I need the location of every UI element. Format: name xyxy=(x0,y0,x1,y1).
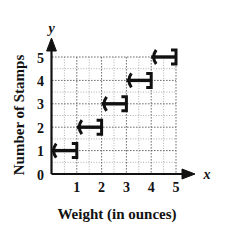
x-tick-label-3: 3 xyxy=(123,180,130,195)
x-tick-label-1: 1 xyxy=(73,180,80,195)
x-tick-label-2: 2 xyxy=(98,180,105,195)
y-axis-title: Number of Stamps xyxy=(11,55,27,176)
y-axis-variable-label: y xyxy=(46,21,55,36)
step-function-chart: 5 4 3 2 1 0 1 2 3 4 5 y x Number of Stam… xyxy=(0,0,228,232)
x-tick-label-4: 4 xyxy=(148,180,155,195)
y-tick-label-1: 1 xyxy=(37,144,44,159)
y-tick-label-2: 2 xyxy=(37,121,44,136)
x-axis-variable-label: x xyxy=(203,167,211,182)
x-axis-title: Weight (in ounces) xyxy=(57,206,176,223)
x-tick-label-5: 5 xyxy=(173,180,180,195)
y-tick-label-0: 0 xyxy=(37,168,44,183)
y-tick-label-3: 3 xyxy=(37,97,44,112)
chart-background xyxy=(0,0,228,232)
y-tick-label-4: 4 xyxy=(37,74,44,89)
y-tick-label-5: 5 xyxy=(37,51,44,66)
chart-svg: 5 4 3 2 1 0 1 2 3 4 5 y x Number of Stam… xyxy=(0,0,228,232)
